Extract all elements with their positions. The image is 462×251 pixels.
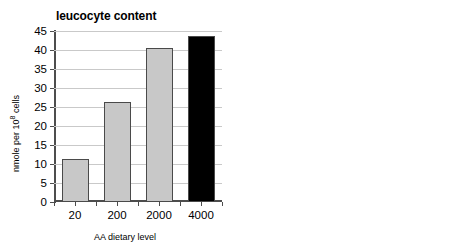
y-tick	[50, 69, 54, 70]
x-axis-label-leucocyte-content: AA dietary level	[30, 232, 220, 242]
y-tick-label: 45	[34, 25, 47, 37]
bar-200	[104, 102, 131, 202]
y-tick	[50, 31, 54, 32]
x-tick	[159, 202, 160, 206]
y-tick	[50, 183, 54, 184]
figure-container: leucocyte content nmole per 108 cells 05…	[0, 0, 462, 251]
y-tick-label: 5	[41, 177, 47, 189]
x-tick-label: 20	[69, 209, 82, 221]
y-tick-label: 25	[34, 101, 47, 113]
y-axis-line-left	[54, 30, 56, 203]
x-tick	[75, 202, 76, 206]
y-tick	[50, 107, 54, 108]
chart-title-leucocyte-content: leucocyte content	[56, 9, 156, 23]
gridline	[54, 31, 222, 32]
x-tick	[117, 202, 118, 206]
y-tick-label: 35	[34, 63, 47, 75]
x-tick-label: 200	[107, 209, 126, 221]
x-tick-boundary	[222, 202, 223, 206]
y-tick-label: 15	[34, 139, 47, 151]
x-tick-boundary	[180, 202, 181, 206]
x-tick-label: 4000	[188, 209, 214, 221]
y-tick	[50, 164, 54, 165]
bar-4000	[188, 36, 215, 202]
x-tick-boundary	[96, 202, 97, 206]
y-tick	[50, 126, 54, 127]
bar-2000	[146, 48, 173, 202]
plot-area-leucocyte-content: 051015202530354045 2020020004000	[54, 31, 222, 202]
chart-panel-oxidative-burst: oxidative burst AUC in 105 mv x sec 5791…	[231, 0, 462, 251]
y-tick-label: 0	[41, 196, 47, 208]
x-tick-boundary	[54, 202, 55, 206]
bar-20	[62, 159, 89, 202]
y-axis-label-leucocyte-content: nmole per 108 cells	[9, 95, 21, 172]
y-tick-label: 10	[34, 158, 47, 170]
chart-panel-leucocyte-content: leucocyte content nmole per 108 cells 05…	[0, 0, 231, 251]
y-tick-label: 30	[34, 82, 47, 94]
x-tick	[201, 202, 202, 206]
y-tick	[50, 50, 54, 51]
y-tick	[50, 88, 54, 89]
y-tick	[50, 145, 54, 146]
x-tick-boundary	[138, 202, 139, 206]
y-tick-label: 40	[34, 44, 47, 56]
y-tick-label: 20	[34, 120, 47, 132]
x-tick-label: 2000	[146, 209, 172, 221]
